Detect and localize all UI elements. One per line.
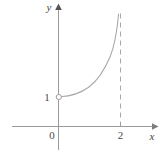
y-axis-arrow-icon xyxy=(55,4,62,11)
y-axis-label: y xyxy=(46,1,52,13)
x-tick-label-2: 2 xyxy=(118,129,124,141)
curve-path xyxy=(60,14,118,97)
function-graph-figure: y x 0 1 2 xyxy=(0,0,164,159)
y-tick-label-1: 1 xyxy=(44,91,50,103)
open-endpoint-marker xyxy=(56,94,61,99)
x-axis-label: x xyxy=(149,130,155,142)
plot-canvas: y x 0 1 2 xyxy=(0,0,164,159)
x-axis-arrow-icon xyxy=(152,123,159,130)
origin-label: 0 xyxy=(49,129,55,141)
